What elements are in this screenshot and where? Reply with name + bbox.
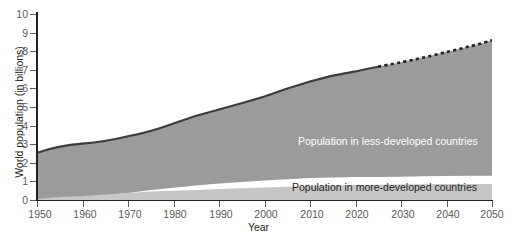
area-less-developed [37,40,492,200]
x-tick-label-1980: 1980 [163,209,186,220]
x-axis-title: Year [0,221,517,233]
area-series-svg [37,14,492,200]
x-tick-1990 [219,201,220,207]
y-tick-0 [30,200,36,201]
y-tick-1 [30,181,36,182]
x-tick-1960 [83,201,84,207]
x-tick-2040 [447,201,448,207]
series-label-more-developed: Population in more-developed countries [292,181,477,193]
y-axis-title: World population (in billions) [13,37,25,187]
y-tick-10 [30,14,36,15]
x-tick-1970 [128,201,129,207]
y-tick-7 [30,70,36,71]
x-tick-label-2010: 2010 [300,209,323,220]
x-tick-2010 [310,201,311,207]
y-tick-5 [30,107,36,108]
x-tick-label-2000: 2000 [254,209,277,220]
x-tick-2050 [492,201,493,207]
series-label-less-developed: Population in less-developed countries [298,135,478,147]
x-tick-label-1950: 1950 [28,209,51,220]
y-tick-9 [30,33,36,34]
x-tick-label-2020: 2020 [345,209,368,220]
y-tick-8 [30,51,36,52]
y-tick-3 [30,144,36,145]
plot-area: Population in less-developed countries P… [37,14,492,200]
y-tick-6 [30,88,36,89]
x-tick-label-2040: 2040 [436,209,459,220]
x-tick-2030 [401,201,402,207]
x-tick-label-1990: 1990 [209,209,232,220]
y-tick-label-10: 10 [2,9,28,20]
x-tick-2000 [265,201,266,207]
x-tick-2020 [356,201,357,207]
x-tick-label-1970: 1970 [118,209,141,220]
x-tick-1950 [37,201,38,207]
y-tick-label-0: 0 [8,195,28,206]
x-tick-label-2030: 2030 [391,209,414,220]
x-tick-label-1960: 1960 [73,209,96,220]
x-tick-1980 [174,201,175,207]
y-tick-4 [30,126,36,127]
y-tick-2 [30,163,36,164]
population-area-chart: Population in less-developed countries P… [0,0,517,238]
x-tick-label-2050: 2050 [480,209,503,220]
y-axis-line [36,12,38,201]
